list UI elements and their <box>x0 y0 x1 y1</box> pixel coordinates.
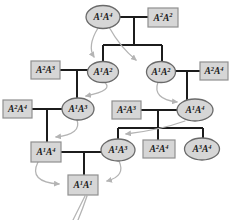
gamete-arrow-gen4male-to-gen5 <box>36 162 59 184</box>
gen5-child-node <box>68 175 98 195</box>
gen4-sib-female-node <box>185 138 220 160</box>
gen2-left-male-node <box>31 61 60 79</box>
gen3-left-female-node <box>62 98 94 120</box>
gen2-right-female-node <box>147 62 176 83</box>
gamete-arrow-gen1-to-gen2-left <box>91 28 98 57</box>
gamete-arrow-gen3left-to-gen4left <box>56 120 78 137</box>
gen4-left-female-node <box>101 139 135 161</box>
gen1-male-node <box>148 8 178 27</box>
gen4-left-male-node <box>31 142 61 162</box>
gen1-female-node <box>86 6 120 29</box>
gen2-right-male-node <box>200 62 228 80</box>
gamete-arrow-gen2left-to-gen3left <box>86 82 107 96</box>
gen3-right-female-node <box>177 99 213 121</box>
gen2-left-female-node <box>88 62 119 83</box>
gen3-left-male-node <box>3 100 32 118</box>
gamete-arrow-gen1-to-gen2-right <box>109 27 136 60</box>
gen3-right-male-node <box>112 101 141 119</box>
pedigree-genotype-diagram: A1​A4​A2​A2​A2​A3​A1​A2​A1​A2​A2​A4​A2​A… <box>0 0 238 220</box>
pedigree-diagram-canvas: A1​A4​A2​A2​A2​A3​A1​A2​A1​A2​A2​A4​A2​A… <box>0 0 238 220</box>
gamete-arrow-gen2right-to-gen3right <box>157 82 177 102</box>
gen4-sib-male-node <box>143 140 175 158</box>
gamete-arrow-gen4female-to-gen5 <box>107 161 121 181</box>
